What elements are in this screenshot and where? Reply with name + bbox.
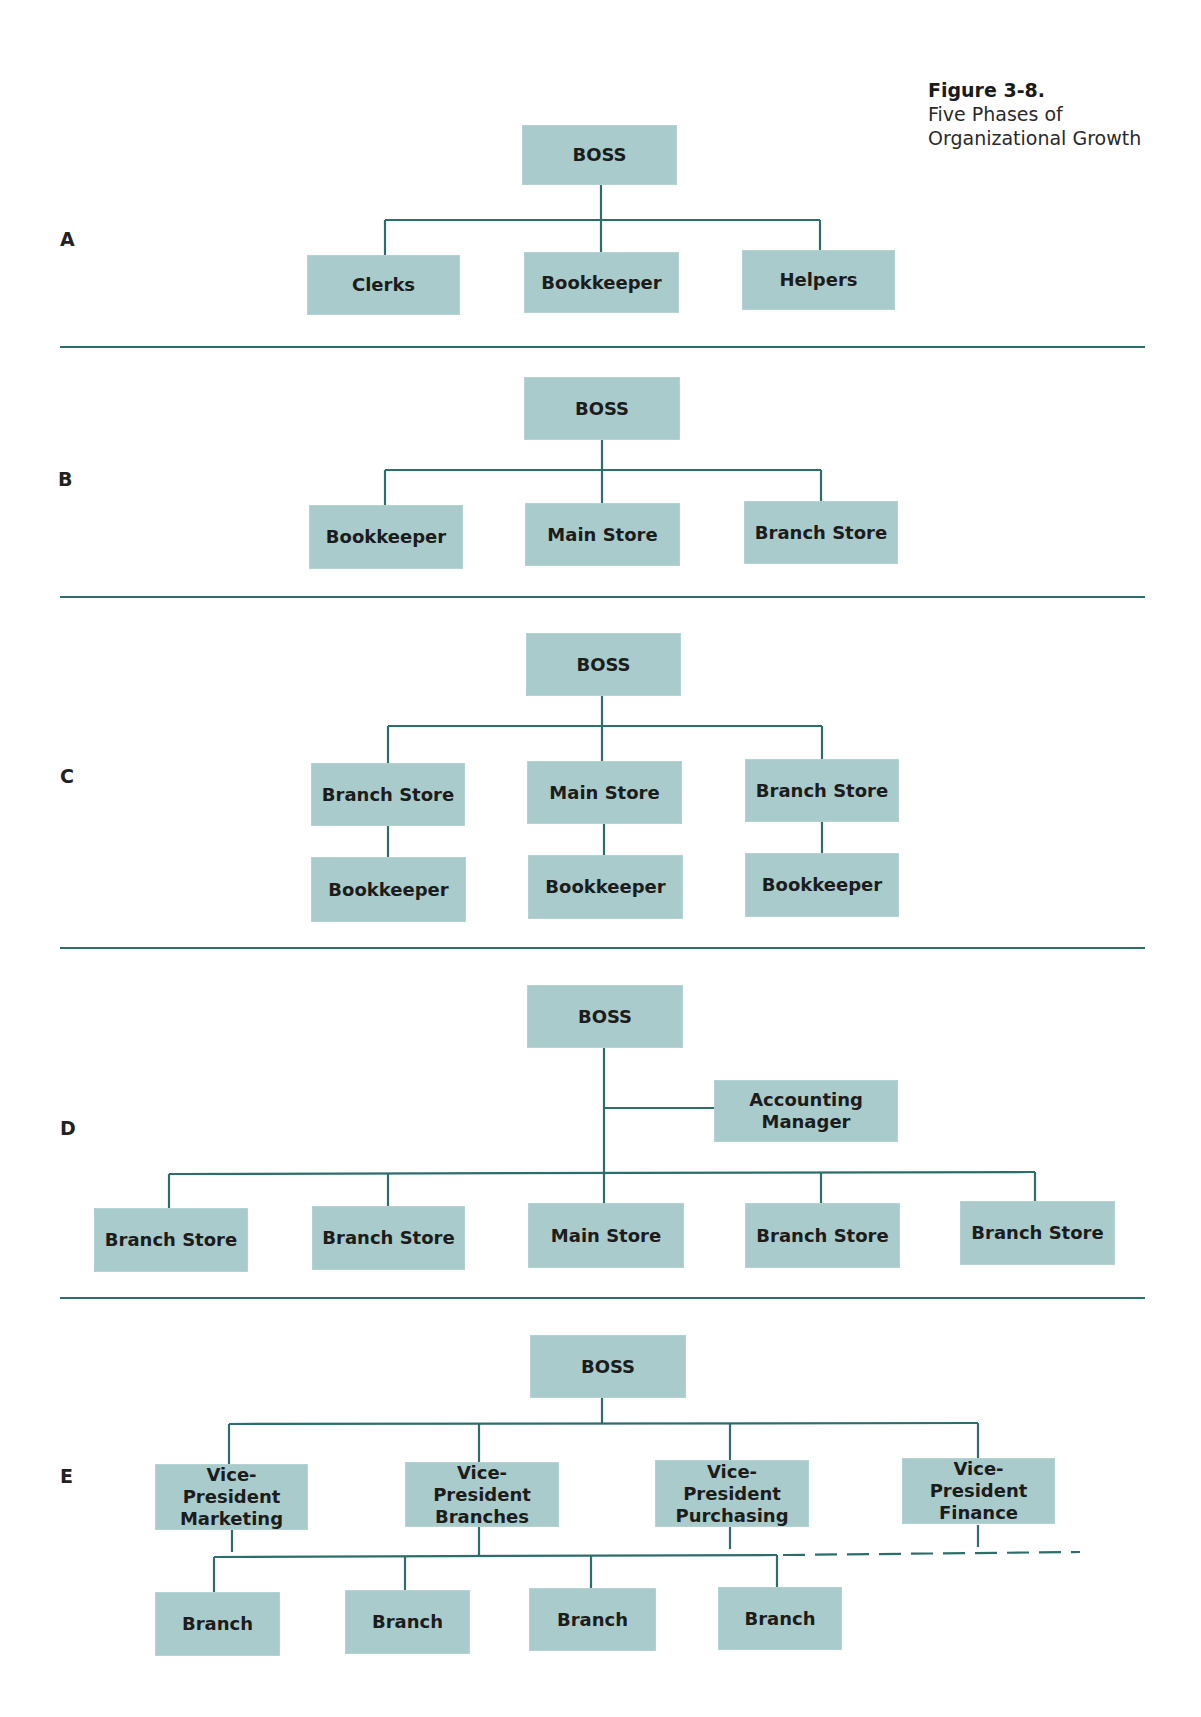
section-label-d: D: [60, 1117, 76, 1139]
section-label-a: A: [60, 228, 75, 250]
section-label-e: E: [60, 1465, 73, 1487]
org-box-bookkeeper: Bookkeeper: [745, 853, 899, 917]
org-box-vp-finance: Vice-President Finance: [902, 1458, 1055, 1524]
org-box-boss: BOSS: [522, 125, 677, 185]
connector: [229, 1423, 978, 1424]
org-box-boss: BOSS: [527, 985, 683, 1048]
org-box-branch-store: Branch Store: [745, 759, 899, 822]
section-label-b: B: [58, 468, 72, 490]
org-box-branch: Branch: [718, 1587, 842, 1650]
org-box-vp-purchasing: Vice-President Purchasing: [655, 1460, 809, 1527]
org-box-branch-store: Branch Store: [312, 1206, 465, 1270]
connector: [783, 1552, 1080, 1555]
org-box-branch: Branch: [155, 1592, 280, 1656]
org-box-branch: Branch: [529, 1588, 656, 1651]
figure-title-line2: Organizational Growth: [928, 126, 1141, 150]
figure-title-line1: Five Phases of: [928, 102, 1141, 126]
org-box-accounting-manager: Accounting Manager: [714, 1080, 898, 1142]
org-box-main-store: Main Store: [527, 761, 682, 824]
org-box-helpers: Helpers: [742, 250, 895, 310]
org-box-main-store: Main Store: [525, 503, 680, 566]
section-divider: [60, 346, 1145, 348]
org-box-branch-store: Branch Store: [745, 1203, 900, 1268]
org-box-branch: Branch: [345, 1590, 470, 1654]
org-box-branch-store: Branch Store: [94, 1208, 248, 1272]
connector: [214, 1555, 777, 1557]
org-box-branch-store: Branch Store: [311, 763, 465, 826]
figure-caption: Figure 3-8. Five Phases of Organizationa…: [928, 78, 1141, 150]
org-box-bookkeeper: Bookkeeper: [309, 505, 463, 569]
section-divider: [60, 1297, 1145, 1299]
org-box-bookkeeper: Bookkeeper: [311, 857, 466, 922]
org-box-main-store: Main Store: [528, 1203, 684, 1268]
org-box-boss: BOSS: [526, 633, 681, 696]
org-box-boss: BOSS: [524, 377, 680, 440]
org-box-bookkeeper: Bookkeeper: [524, 252, 679, 313]
connector: [169, 1172, 1035, 1174]
org-box-branch-store: Branch Store: [960, 1201, 1115, 1265]
section-label-c: C: [60, 765, 74, 787]
org-box-clerks: Clerks: [307, 255, 460, 315]
org-box-bookkeeper: Bookkeeper: [528, 855, 683, 919]
section-divider: [60, 596, 1145, 598]
org-box-boss: BOSS: [530, 1335, 686, 1398]
figure-number: Figure 3-8.: [928, 78, 1141, 102]
org-box-vp-branches: Vice-President Branches: [405, 1462, 559, 1527]
org-box-vp-marketing: Vice-President Marketing: [155, 1464, 308, 1530]
org-box-branch-store: Branch Store: [744, 501, 898, 564]
section-divider: [60, 947, 1145, 949]
